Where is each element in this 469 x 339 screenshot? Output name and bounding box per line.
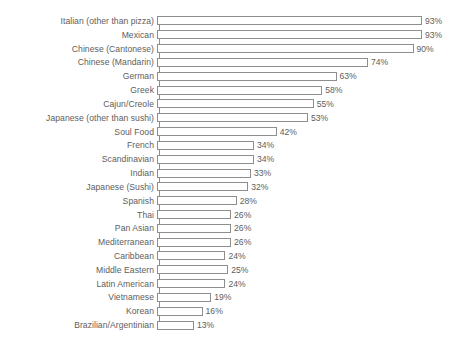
- bar: [157, 44, 414, 53]
- bar: [157, 16, 422, 25]
- value-label: 63%: [337, 71, 357, 81]
- category-label: Pan Asian: [0, 223, 157, 233]
- bar-track: 93%: [157, 14, 469, 28]
- value-label: 26%: [231, 223, 251, 233]
- bar: [157, 58, 368, 67]
- value-label: 32%: [248, 182, 268, 192]
- bar: [157, 238, 231, 247]
- bar-row: Mediterranean26%: [0, 235, 469, 249]
- bar-row: Chinese (Cantonese)90%: [0, 42, 469, 56]
- bar-track: 63%: [157, 69, 469, 83]
- bar-row: Mexican93%: [0, 28, 469, 42]
- bar-row: German63%: [0, 69, 469, 83]
- category-label: German: [0, 71, 157, 81]
- bar-track: 33%: [157, 166, 469, 180]
- category-label: Cajun/Creole: [0, 99, 157, 109]
- value-label: 74%: [368, 57, 388, 67]
- bar: [157, 321, 194, 330]
- value-label: 24%: [225, 251, 245, 261]
- value-label: 58%: [322, 85, 342, 95]
- bar: [157, 251, 225, 260]
- category-label: Chinese (Cantonese): [0, 44, 157, 54]
- value-label: 93%: [422, 30, 442, 40]
- value-label: 13%: [194, 320, 214, 330]
- bar-row: Indian33%: [0, 166, 469, 180]
- bar-row: Vietnamese19%: [0, 291, 469, 305]
- bar-track: 28%: [157, 194, 469, 208]
- bar: [157, 196, 237, 205]
- bar-track: 58%: [157, 83, 469, 97]
- category-label: Mediterranean: [0, 237, 157, 247]
- category-label: Indian: [0, 168, 157, 178]
- bar-track: 55%: [157, 97, 469, 111]
- bar: [157, 182, 248, 191]
- plot-area: Italian (other than pizza)93%Mexican93%C…: [0, 14, 469, 332]
- category-label: Spanish: [0, 196, 157, 206]
- bar-row: Japanese (other than sushi)53%: [0, 111, 469, 125]
- category-label: Scandinavian: [0, 154, 157, 164]
- bar: [157, 155, 254, 164]
- category-label: Mexican: [0, 30, 157, 40]
- category-label: French: [0, 140, 157, 150]
- category-label: Japanese (Sushi): [0, 182, 157, 192]
- value-label: 34%: [254, 154, 274, 164]
- value-label: 28%: [237, 196, 257, 206]
- bar-row: Caribbean24%: [0, 249, 469, 263]
- value-label: 16%: [203, 306, 223, 316]
- bar-row: French34%: [0, 138, 469, 152]
- value-label: 53%: [308, 113, 328, 123]
- category-label: Soul Food: [0, 127, 157, 137]
- category-label: Brazilian/Argentinian: [0, 320, 157, 330]
- bar: [157, 265, 228, 274]
- category-label: Thai: [0, 210, 157, 220]
- bar-row: Spanish28%: [0, 194, 469, 208]
- bar-row: Brazilian/Argentinian13%: [0, 318, 469, 332]
- bar-track: 24%: [157, 249, 469, 263]
- value-label: 26%: [231, 210, 251, 220]
- category-label: Italian (other than pizza): [0, 16, 157, 26]
- bar-track: 24%: [157, 277, 469, 291]
- category-label: Greek: [0, 85, 157, 95]
- bar: [157, 141, 254, 150]
- bar-row: Thai26%: [0, 208, 469, 222]
- bar: [157, 279, 225, 288]
- bar: [157, 127, 277, 136]
- bar-track: 53%: [157, 111, 469, 125]
- value-label: 26%: [231, 237, 251, 247]
- category-label: Japanese (other than sushi): [0, 113, 157, 123]
- bar-track: 74%: [157, 55, 469, 69]
- bar-row: Middle Eastern25%: [0, 263, 469, 277]
- bar-row: Scandinavian34%: [0, 152, 469, 166]
- bar-track: 26%: [157, 235, 469, 249]
- bar-track: 26%: [157, 221, 469, 235]
- category-label: Vietnamese: [0, 292, 157, 302]
- bar-track: 13%: [157, 318, 469, 332]
- bar-row: Pan Asian26%: [0, 221, 469, 235]
- bar-row: Italian (other than pizza)93%: [0, 14, 469, 28]
- bar-row: Greek58%: [0, 83, 469, 97]
- bar: [157, 224, 231, 233]
- bar-track: 25%: [157, 263, 469, 277]
- bar-row: Cajun/Creole55%: [0, 97, 469, 111]
- horizontal-bar-chart: Italian (other than pizza)93%Mexican93%C…: [0, 0, 469, 339]
- value-label: 55%: [314, 99, 334, 109]
- value-label: 25%: [228, 265, 248, 275]
- value-label: 42%: [277, 127, 297, 137]
- bar-track: 34%: [157, 138, 469, 152]
- bar: [157, 86, 322, 95]
- bar-track: 90%: [157, 42, 469, 56]
- bar: [157, 169, 251, 178]
- category-label: Latin American: [0, 279, 157, 289]
- value-label: 24%: [225, 279, 245, 289]
- bar: [157, 113, 308, 122]
- bar-track: 16%: [157, 304, 469, 318]
- bar-row: Latin American24%: [0, 277, 469, 291]
- bar-row: Korean16%: [0, 304, 469, 318]
- bar-track: 19%: [157, 291, 469, 305]
- bar: [157, 99, 314, 108]
- category-label: Caribbean: [0, 251, 157, 261]
- category-label: Middle Eastern: [0, 265, 157, 275]
- bar-track: 93%: [157, 28, 469, 42]
- bar: [157, 210, 231, 219]
- bar-track: 26%: [157, 208, 469, 222]
